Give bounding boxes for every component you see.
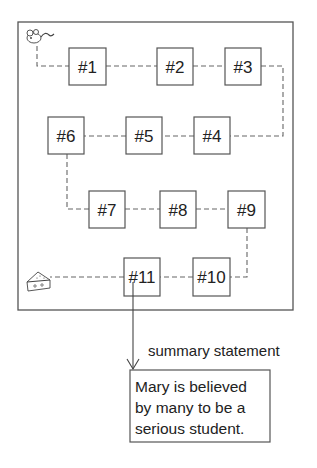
box-8: #8 — [160, 191, 196, 228]
box-3: #3 — [225, 48, 261, 85]
box-4: #4 — [194, 117, 230, 154]
box-label: #8 — [169, 201, 188, 220]
summary-statement-box: Mary is believed by many to be a serious… — [130, 370, 270, 442]
summary-line-3: serious student. — [135, 420, 244, 437]
box-label: #2 — [166, 58, 185, 77]
box-label: #4 — [203, 127, 222, 146]
box-1: #1 — [69, 48, 106, 85]
summary-line-1: Mary is believed — [135, 378, 247, 395]
box-label: #6 — [57, 127, 76, 146]
cheese-icon — [27, 272, 50, 291]
box-label: #7 — [98, 201, 117, 220]
box-10: #10 — [193, 258, 230, 296]
maze-diagram: #1 #2 #3 #4 #5 #6 #7 #8 #9 #10 #11 — [0, 0, 317, 468]
box-11: #11 — [124, 258, 160, 296]
box-9: #9 — [228, 191, 265, 228]
box-label: #5 — [135, 127, 154, 146]
summary-line-2: by many to be a — [135, 399, 246, 416]
box-6: #6 — [48, 117, 84, 154]
box-label: #10 — [197, 268, 225, 287]
summary-caption: summary statement — [148, 342, 281, 359]
mouse-icon — [27, 30, 54, 44]
box-label: #3 — [234, 58, 253, 77]
box-label: #9 — [237, 201, 256, 220]
box-5: #5 — [126, 117, 162, 154]
box-label: #1 — [78, 58, 97, 77]
box-2: #2 — [157, 48, 193, 85]
box-7: #7 — [89, 191, 125, 228]
